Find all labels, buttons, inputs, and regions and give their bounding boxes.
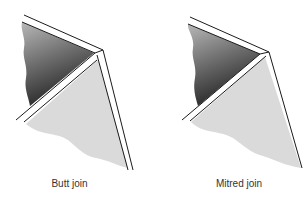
mitred-join-figure: Mitred join [153, 0, 307, 207]
mitred-join-illustration [153, 0, 307, 207]
mitred-join-caption: Mitred join [162, 178, 307, 189]
butt-join-illustration [0, 0, 153, 207]
butt-join-caption: Butt join [0, 178, 146, 189]
butt-join-figure: Butt join [0, 0, 153, 207]
